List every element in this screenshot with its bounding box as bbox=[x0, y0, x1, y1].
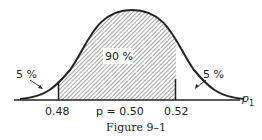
figure-caption: Figure 9–1 bbox=[106, 121, 166, 134]
tick-label-0.52: 0.52 bbox=[164, 105, 189, 118]
tick-label-0.50: p = 0.50 bbox=[96, 105, 144, 118]
right-tail-label: 5 % bbox=[203, 68, 224, 81]
center-label: 90 % bbox=[105, 50, 133, 63]
normal-distribution-figure: 90 % 5 % 5 % p 1 0.48 p = 0.50 0.52 Figu… bbox=[0, 0, 262, 140]
left-tail-label: 5 % bbox=[16, 68, 37, 81]
axis-label: p bbox=[241, 92, 249, 105]
tick-label-0.48: 0.48 bbox=[45, 105, 70, 118]
right-arrowhead-icon bbox=[195, 84, 199, 89]
axis-label-subscript: 1 bbox=[249, 99, 254, 108]
